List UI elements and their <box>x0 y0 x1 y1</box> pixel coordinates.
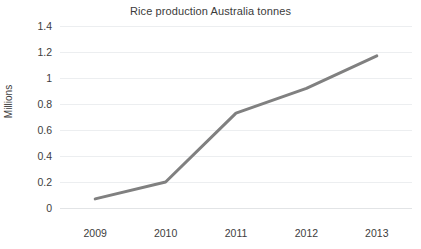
plot-area <box>60 26 412 208</box>
chart-title: Rice production Australia tonnes <box>0 5 421 17</box>
y-tick-label: 0.8 <box>8 99 52 110</box>
x-tick-label: 2012 <box>276 228 336 239</box>
y-tick-label: 0 <box>8 203 52 214</box>
series-line-layer <box>60 26 412 208</box>
x-tick-label: 2010 <box>136 228 196 239</box>
x-tick-label: 2009 <box>65 228 125 239</box>
gridline <box>60 208 412 209</box>
y-tick-label: 1 <box>8 73 52 84</box>
y-tick-label: 1.2 <box>8 47 52 58</box>
y-tick-label: 0.2 <box>8 177 52 188</box>
y-tick-label: 0.6 <box>8 125 52 136</box>
x-tick-label: 2013 <box>347 228 407 239</box>
y-tick-label: 1.4 <box>8 21 52 32</box>
line-chart: Rice production Australia tonnes Million… <box>0 0 421 249</box>
y-tick-label: 0.4 <box>8 151 52 162</box>
series-line-rice-production <box>95 56 377 199</box>
x-tick-label: 2011 <box>206 228 266 239</box>
x-axis-tick-labels: 20092010201120122013 <box>60 228 412 244</box>
